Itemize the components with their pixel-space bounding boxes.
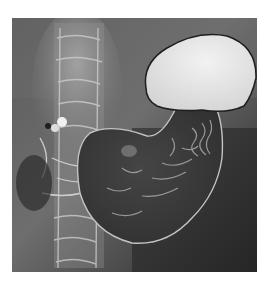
xray-image [12, 18, 257, 272]
